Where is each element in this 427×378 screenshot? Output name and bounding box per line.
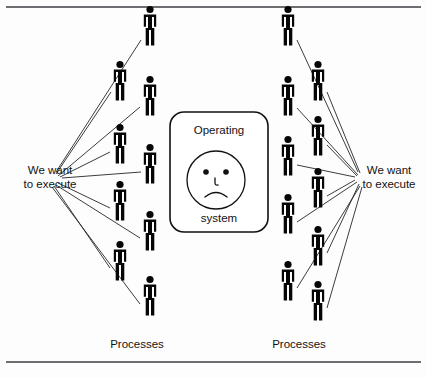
face-eye-left: [203, 169, 209, 175]
right-connector-6: [327, 180, 355, 196]
person-icon: [114, 124, 126, 164]
person-icon: [312, 226, 324, 266]
person-icon: [282, 6, 294, 46]
person-icon: [114, 61, 126, 101]
right-callout-label: We want to execute: [362, 164, 415, 190]
right-processes-caption: Processes: [272, 338, 326, 350]
right-connector-2: [327, 92, 360, 173]
person-icon: [144, 144, 156, 184]
right-connector-5: [297, 165, 355, 177]
person-icon: [312, 116, 324, 156]
right-connector-lines: [297, 40, 362, 308]
person-icon: [144, 6, 156, 46]
person-icon: [144, 76, 156, 116]
left-connector-1: [56, 40, 141, 172]
os-processes-diagram: Operating system: [0, 0, 427, 378]
person-icon: [282, 136, 294, 176]
face-eye-right: [223, 169, 229, 175]
left-connector-7: [56, 185, 140, 238]
right-callout-line1: We want: [367, 164, 412, 176]
person-icon: [144, 276, 156, 316]
person-icon: [312, 168, 324, 208]
left-callout-label: We want to execute: [23, 164, 76, 190]
left-connector-2: [56, 92, 111, 174]
right-connector-3: [297, 108, 358, 175]
left-callout-line2: to execute: [23, 178, 76, 190]
person-icon: [144, 211, 156, 251]
right-connector-7: [297, 182, 357, 222]
right-connector-10: [327, 187, 362, 308]
right-callout-line2: to execute: [362, 178, 415, 190]
person-icon: [114, 241, 126, 281]
right-connector-1: [297, 40, 358, 172]
person-icon: [282, 194, 294, 234]
person-icon: [312, 281, 324, 321]
person-icon: [282, 261, 294, 301]
person-icon: [282, 76, 294, 116]
person-icon: [114, 181, 126, 221]
left-processes-caption: Processes: [110, 338, 164, 350]
os-bottom-label: system: [201, 212, 237, 224]
operating-system-box: Operating system: [170, 112, 268, 232]
left-callout-line1: We want: [28, 164, 73, 176]
left-connector-9: [52, 187, 140, 304]
os-top-label: Operating: [194, 124, 245, 136]
right-connector-8: [327, 184, 359, 253]
left-process-group: [114, 6, 156, 316]
diagram-page: Operating system: [0, 0, 427, 378]
